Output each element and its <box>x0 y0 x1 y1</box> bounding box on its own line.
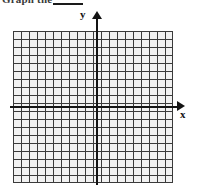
coordinate-plane: x y <box>13 31 173 183</box>
x-axis-line <box>10 106 179 108</box>
answer-blank-line[interactable] <box>53 3 83 5</box>
worksheet-page: Graph the x y <box>0 0 199 195</box>
y-axis-label: y <box>80 9 86 20</box>
prompt-text: Graph the <box>2 0 52 5</box>
y-axis-arrow-icon <box>92 11 102 19</box>
y-axis-line <box>96 17 98 185</box>
x-axis-label: x <box>180 109 186 120</box>
